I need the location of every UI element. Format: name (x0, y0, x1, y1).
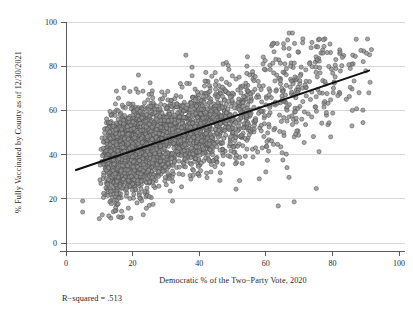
scatter-point (156, 174, 160, 178)
scatter-point (132, 177, 136, 181)
scatter-point (151, 158, 155, 162)
scatter-point (207, 142, 211, 146)
scatter-point (163, 179, 167, 183)
scatter-point (124, 187, 128, 191)
scatter-point (141, 89, 145, 93)
scatter-point (179, 185, 183, 189)
scatter-point (308, 97, 312, 101)
scatter-point (244, 114, 248, 118)
scatter-point (109, 149, 113, 153)
scatter-point (222, 136, 226, 140)
scatter-point (188, 125, 192, 129)
scatter-point (131, 165, 135, 169)
scatter-point (253, 146, 257, 150)
scatter-point (103, 131, 107, 135)
scatter-point (154, 131, 158, 135)
scatter-point (303, 123, 307, 127)
scatter-point (245, 147, 249, 151)
scatter-point (348, 85, 352, 89)
scatter-point (301, 99, 305, 103)
scatter-point (205, 176, 209, 180)
scatter-point (148, 81, 152, 85)
scatter-point (281, 42, 285, 46)
scatter-point (144, 206, 148, 210)
scatter-point (267, 125, 271, 129)
scatter-point (224, 80, 228, 84)
scatter-point (179, 154, 183, 158)
scatter-point (219, 114, 223, 118)
scatter-point (167, 176, 171, 180)
scatter-point (116, 202, 120, 206)
scatter-point (331, 91, 335, 95)
scatter-point (159, 102, 163, 106)
scatter-point (195, 115, 199, 119)
scatter-point (116, 109, 120, 113)
scatter-point (150, 92, 154, 96)
scatter-point (125, 125, 129, 129)
scatter-point (329, 135, 333, 139)
scatter-point (309, 46, 313, 50)
scatter-point (354, 107, 358, 111)
scatter-point (138, 167, 142, 171)
x-tick-label-100: 100 (393, 259, 405, 268)
scatter-point (199, 107, 203, 111)
scatter-point (243, 154, 247, 158)
scatter-point (328, 42, 332, 46)
scatter-point (272, 128, 276, 132)
scatter-point (214, 79, 218, 83)
scatter-point (198, 112, 202, 116)
scatter-point (252, 79, 256, 83)
scatter-point (361, 108, 365, 112)
scatter-point (223, 128, 227, 132)
scatter-point (183, 153, 187, 157)
scatter-point (156, 124, 160, 128)
scatter-point (209, 170, 213, 174)
scatter-point (216, 94, 220, 98)
scatter-point (113, 102, 117, 106)
scatter-point (98, 178, 102, 182)
scatter-point (147, 180, 151, 184)
scatter-point (290, 114, 294, 118)
scatter-point (150, 175, 154, 179)
scatter-point (208, 148, 212, 152)
scatter-point (240, 161, 244, 165)
x-tick-label-40: 40 (195, 259, 203, 268)
scatter-point (132, 126, 136, 130)
scatter-point (236, 124, 240, 128)
y-tick-label-40: 40 (49, 151, 57, 160)
scatter-point (314, 105, 318, 109)
scatter-point (278, 61, 282, 65)
scatter-point (189, 146, 193, 150)
scatter-point (102, 191, 106, 195)
scatter-point (111, 140, 115, 144)
scatter-point (109, 189, 113, 193)
scatter-point (233, 162, 237, 166)
scatter-point (118, 184, 122, 188)
scatter-point (179, 95, 183, 99)
scatter-point (340, 55, 344, 59)
scatter-point (201, 147, 205, 151)
scatter-point (367, 91, 371, 95)
scatter-point (234, 187, 238, 191)
scatter-point (124, 194, 128, 198)
scatter-point (216, 135, 220, 139)
scatter-point (338, 69, 342, 73)
x-tick-label-80: 80 (328, 259, 336, 268)
scatter-point (158, 144, 162, 148)
scatter-point (157, 184, 161, 188)
scatter-point (114, 89, 118, 93)
scatter-point (122, 86, 126, 90)
scatter-point (170, 151, 174, 155)
scatter-point (357, 91, 361, 95)
scatter-point (254, 118, 258, 122)
scatter-point (263, 114, 267, 118)
scatter-point (282, 115, 286, 119)
scatter-point (166, 119, 170, 123)
scatter-point (194, 156, 198, 160)
scatter-point (280, 86, 284, 90)
y-tick-label-100: 100 (45, 18, 57, 27)
scatter-point (273, 79, 277, 83)
scatter-point (117, 196, 121, 200)
y-tick-label-60: 60 (49, 106, 57, 115)
scatter-point (131, 196, 135, 200)
